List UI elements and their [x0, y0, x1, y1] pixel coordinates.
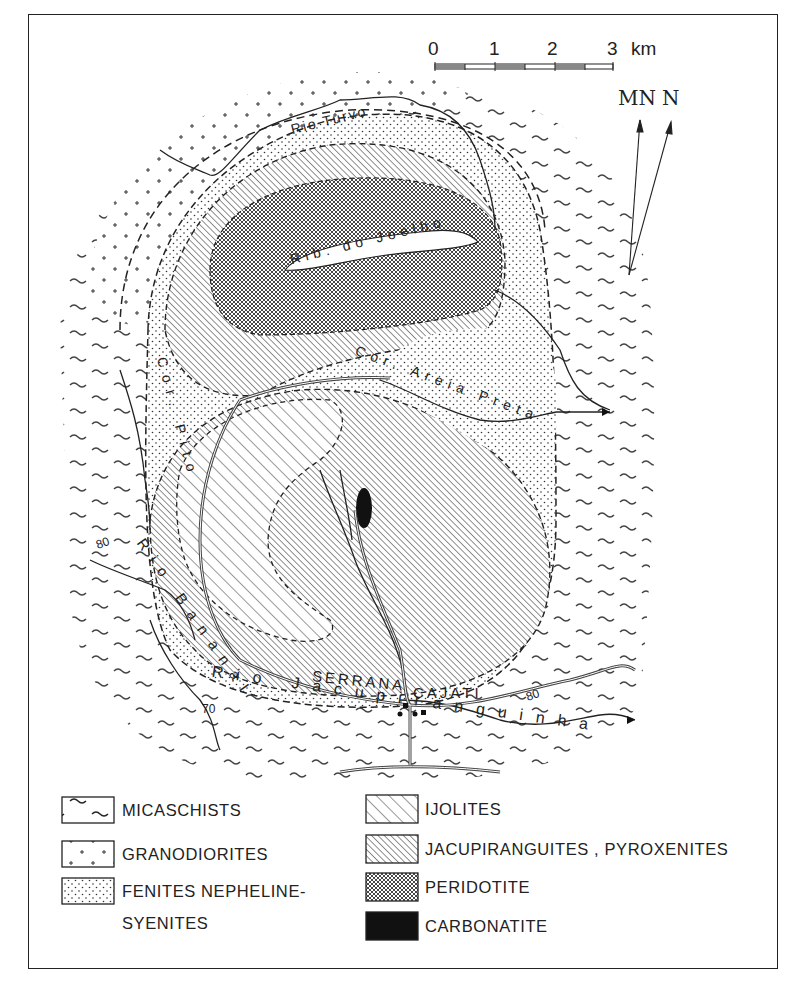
- scale-tick-2: 2: [547, 38, 558, 60]
- north-arrow-icon: [629, 120, 672, 275]
- carbonatite-body: [356, 488, 372, 528]
- legend-item-carbonatite: CARBONATITE: [425, 913, 548, 939]
- legend-label: FENITES NEPHELINE-: [122, 878, 306, 904]
- legend-item-ijolites: IJOLITES: [425, 796, 501, 822]
- legend-item-fenites-line2: SYENITES: [122, 910, 208, 936]
- scale-bar: [435, 62, 613, 71]
- scale-unit: km: [631, 38, 656, 60]
- scale-bar-labels: 0 1 2 3 km: [425, 38, 685, 60]
- legend-label: CARBONATITE: [425, 913, 548, 939]
- legend-item-jacupiranguites: JACUPIRANGUITES , PYROXENITES: [425, 836, 728, 862]
- legend-item-peridotite: PERIDOTITE: [425, 874, 530, 900]
- scale-tick-1: 1: [489, 38, 500, 60]
- legend-item-micaschists: MICASCHISTS: [122, 797, 241, 823]
- legend-label: IJOLITES: [425, 796, 501, 822]
- legend-item-fenites: FENITES NEPHELINE-: [122, 878, 306, 904]
- north-arrow-labels: MNN: [618, 86, 685, 110]
- dip-label-70: 70: [202, 702, 215, 716]
- legend-label: SYENITES: [122, 910, 208, 936]
- legend-item-granodiorites: GRANODIORITES: [122, 841, 268, 867]
- legend-label: GRANODIORITES: [122, 841, 268, 867]
- legend-label: MICASCHISTS: [122, 797, 241, 823]
- legend-label: PERIDOTITE: [425, 874, 530, 900]
- magnetic-north-label: MN: [618, 86, 656, 110]
- legend-label: JACUPIRANGUITES , PYROXENITES: [425, 836, 728, 862]
- scale-tick-3: 3: [607, 38, 618, 60]
- scale-tick-0: 0: [428, 38, 439, 60]
- label-cajati: CAJATI: [413, 684, 482, 701]
- arrow-jacupiranguinha-icon: [627, 716, 635, 724]
- true-north-label: N: [662, 86, 680, 110]
